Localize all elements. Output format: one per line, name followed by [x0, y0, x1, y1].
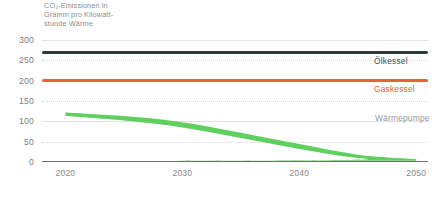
- x-tick-label: 2020: [55, 168, 75, 178]
- gridline: [42, 40, 428, 41]
- y-tick-label: 200: [2, 76, 34, 86]
- x-axis-line: [42, 161, 428, 162]
- gridline: [42, 121, 428, 122]
- x-tick-label: 2040: [289, 168, 309, 178]
- x-tick-label: 2030: [172, 168, 192, 178]
- gridline: [42, 142, 428, 143]
- gridline: [42, 60, 428, 61]
- series-gaskessel-line: [42, 79, 428, 82]
- series-oelkessel-line: [42, 51, 428, 54]
- y-tick-label: 300: [2, 35, 34, 45]
- plot-area: 300250200150100500 2020203020402050: [42, 40, 428, 162]
- series-label-waermepumpe: Wärmepumpe: [375, 113, 430, 123]
- y-tick-label: 0: [2, 157, 34, 167]
- series-label-oelkessel: Ölkessel: [374, 56, 408, 66]
- series-label-gaskessel: Gaskessel: [374, 84, 415, 94]
- y-tick-label: 250: [2, 55, 34, 65]
- x-tick-label: 2050: [406, 168, 426, 178]
- y-tick-label: 50: [2, 137, 34, 147]
- gridline: [42, 101, 428, 102]
- chart-container: CO₂-Emissionen in Gramm pro Kilowatt- st…: [0, 0, 448, 197]
- y-tick-label: 150: [2, 96, 34, 106]
- y-tick-label: 100: [2, 116, 34, 126]
- chart-title: CO₂-Emissionen in Gramm pro Kilowatt- st…: [44, 1, 194, 29]
